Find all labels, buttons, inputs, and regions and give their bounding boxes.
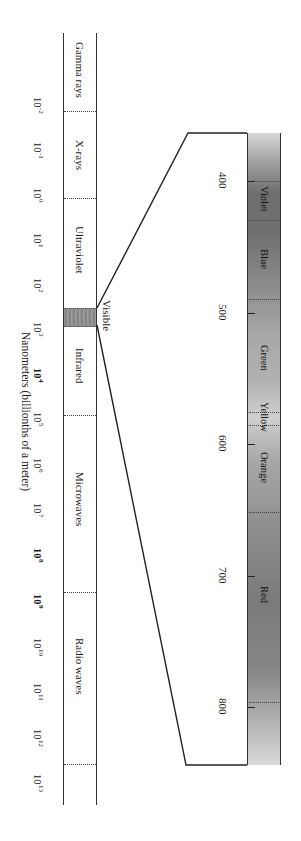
nm-label-500: 500 bbox=[217, 304, 229, 321]
nm-tick-800 bbox=[248, 707, 255, 708]
color-label-yellow: Yellow bbox=[259, 402, 270, 432]
color-label-green: Green bbox=[259, 345, 270, 371]
nm-tick-400 bbox=[248, 181, 255, 182]
color-label-blue: Blue bbox=[259, 249, 270, 269]
nm-tick-500 bbox=[248, 313, 255, 314]
color-label-orange: Orange bbox=[259, 452, 270, 483]
divider-violet-blue bbox=[249, 220, 279, 221]
color-label-violet: Violet bbox=[259, 186, 270, 212]
nm-label-800: 800 bbox=[217, 698, 229, 715]
nm-tick-700 bbox=[248, 576, 255, 577]
visible-spectrum-bar bbox=[247, 133, 281, 765]
divider-red-end bbox=[249, 702, 279, 703]
nm-tick-600 bbox=[248, 444, 255, 445]
color-label-red: Red bbox=[259, 586, 270, 603]
nm-label-600: 600 bbox=[217, 435, 229, 452]
divider-orange-red bbox=[249, 512, 279, 513]
divider-blue-green bbox=[249, 299, 279, 300]
nm-label-400: 400 bbox=[217, 172, 229, 189]
nm-label-700: 700 bbox=[217, 567, 229, 584]
